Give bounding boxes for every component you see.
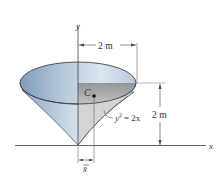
arrow-left-small-icon xyxy=(79,159,83,161)
equation-rhs: = 2x xyxy=(124,113,141,123)
centroid-label: C xyxy=(84,87,91,98)
arrow-right-small-icon xyxy=(89,159,93,161)
arrow-right-icon xyxy=(131,44,136,47)
diagram-canvas: y x 2 m 2 m C x̄ y2= 2x xyxy=(0,0,224,178)
arrow-left-icon xyxy=(79,44,84,47)
equation-exponent: 2 xyxy=(119,112,122,118)
arrow-down-icon xyxy=(159,140,162,145)
y-axis-label: y xyxy=(75,21,80,31)
curve-equation: y2= 2x xyxy=(114,112,141,123)
centroid-point xyxy=(92,94,96,98)
top-dimension-label: 2 m xyxy=(98,41,113,51)
xbar-label: x̄ xyxy=(82,164,88,174)
right-dimension-label: 2 m xyxy=(152,110,167,120)
x-axis-label: x xyxy=(208,141,213,151)
arrow-up-icon xyxy=(159,84,162,89)
